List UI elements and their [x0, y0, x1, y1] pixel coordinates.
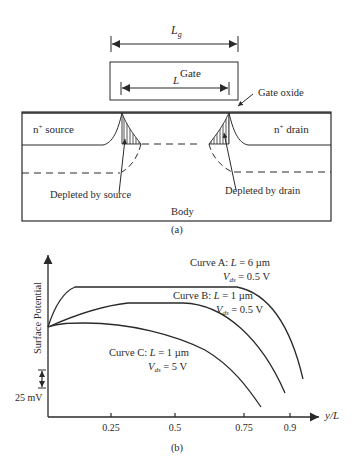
drain-leader [224, 133, 236, 190]
curve-a-label-1: Curve A: L = 6 µm [190, 257, 270, 268]
depleted-by-drain-label: Depleted by drain [225, 185, 301, 196]
scale-bar: 25 mV [15, 370, 46, 403]
source-label: n+ source [33, 123, 74, 135]
drain-label: n+ drain [274, 123, 309, 135]
lg-label: Lg [170, 23, 182, 39]
curve-b-label-1: Curve B: L = 1 µm [173, 290, 253, 301]
x-axis-label: y/L [324, 409, 339, 421]
figure-b: 0.25 0.5 0.75 0.9 y/L Surface Potential … [15, 255, 339, 454]
curve-c-label-2: Vds = 5 V [148, 361, 188, 374]
depleted-by-source-label: Depleted by source [50, 189, 131, 200]
gate-oxide-label: Gate oxide [258, 87, 304, 98]
body-label: Body [171, 206, 195, 217]
drain-depletion-region [209, 113, 229, 144]
caption-a: (a) [171, 224, 183, 236]
curve-b-label-2: Vds = 0.5 V [216, 304, 263, 317]
figure-a: Lg Gate L Gate oxide [22, 23, 331, 236]
caption-b: (b) [171, 442, 184, 454]
gate-oxide-arrow [238, 94, 253, 106]
tick-0-25: 0.25 [102, 422, 120, 433]
y-axis-label: Surface Potential [32, 282, 43, 354]
l-label: L [172, 74, 179, 86]
tick-0-9: 0.9 [284, 422, 297, 433]
curve-c [48, 323, 261, 407]
tick-0-5: 0.5 [169, 422, 182, 433]
scale-label: 25 mV [15, 392, 43, 403]
tick-0-75: 0.75 [235, 422, 253, 433]
curve-c-label-1: Curve C: L = 1 µm [109, 347, 189, 358]
gate-label: Gate [180, 67, 201, 79]
source-leader [119, 139, 125, 193]
lg-dimension: Lg [111, 23, 238, 52]
mosfet-figure: Lg Gate L Gate oxide [0, 0, 356, 472]
curve-a-label-2: Vds = 0.5 V [223, 271, 270, 284]
